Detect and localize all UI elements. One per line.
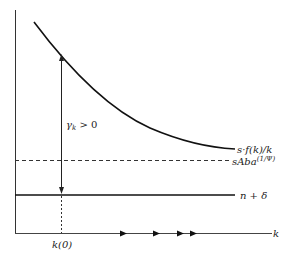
flow-arrow-icon <box>190 231 197 237</box>
savings-curve <box>34 22 235 149</box>
flow-arrow-icon <box>153 231 160 237</box>
growth-diagram: s·f(k)/k sAba(1/Ψ) n + δ γk > 0 k(0) k <box>0 0 292 260</box>
flow-arrow-icon <box>120 231 127 237</box>
asymptote-label: sAba(1/Ψ) <box>232 155 275 167</box>
arrow-head-down-icon <box>59 187 64 194</box>
x-axis-label: k <box>273 228 279 239</box>
depreciation-label: n + δ <box>240 190 267 201</box>
growth-rate-label: γk > 0 <box>66 119 97 132</box>
flow-arrow-icon <box>177 231 184 237</box>
k0-label: k(0) <box>52 239 72 250</box>
savings-curve-label: s·f(k)/k <box>237 144 272 155</box>
